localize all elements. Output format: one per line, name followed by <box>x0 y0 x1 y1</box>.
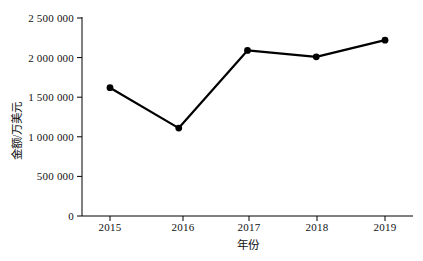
x-tick-label-2016: 2016 <box>172 222 195 233</box>
y-tick-label-1500000: 1 500 000 <box>28 92 74 103</box>
data-point-2019 <box>382 37 389 44</box>
data-point-2015 <box>107 84 114 91</box>
axes-group <box>82 17 413 216</box>
x-tick-label-2019: 2019 <box>374 222 397 233</box>
x-tick-label-2017: 2017 <box>238 222 261 233</box>
data-point-2016 <box>175 125 182 132</box>
y-tick-label-2000000: 2 000 000 <box>28 52 74 63</box>
data-point-markers <box>107 37 389 132</box>
data-point-2018 <box>313 53 320 60</box>
y-tick-marks <box>77 18 82 216</box>
chart-figure: 2 500 000 2 000 000 1 500 000 1 000 000 … <box>0 0 423 261</box>
x-axis-title: 年份 <box>237 239 259 251</box>
x-tick-label-2015: 2015 <box>99 222 122 233</box>
y-axis-title: 金额/万美元 <box>11 76 23 186</box>
y-tick-label-1000000: 1 000 000 <box>28 131 74 142</box>
y-tick-label-2500000: 2 500 000 <box>28 13 74 24</box>
y-tick-label-0: 0 <box>68 211 74 222</box>
data-point-2017 <box>244 47 251 54</box>
y-tick-label-500000: 500 000 <box>37 171 74 182</box>
x-tick-label-2018: 2018 <box>306 222 329 233</box>
